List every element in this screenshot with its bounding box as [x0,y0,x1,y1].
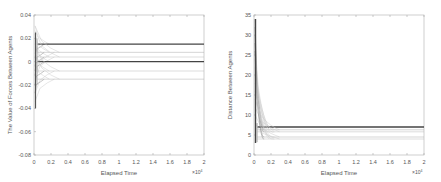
axes-box [34,15,204,155]
axes-box [254,15,424,155]
x-tick-label: 0.4 [64,159,72,165]
x-tick-label: 0.2 [267,159,275,165]
x-tick-label: 2 [202,159,205,165]
y-tick-label: 15 [245,92,251,98]
y-tick-label: 0.04 [20,12,31,18]
x-axis-label: Elapsed Time [321,170,358,176]
x-tick-label: 0 [252,159,255,165]
x-tick-label: 0.2 [47,159,55,165]
y-tick-label: -0.02 [18,82,31,88]
x-multiplier: ×104 [412,169,422,175]
x-tick-label: 1.6 [166,159,174,165]
x-tick-label: 1.6 [386,159,394,165]
y-tick-label: -0.04 [18,105,31,111]
x-tick-label: 0.8 [318,159,326,165]
x-tick-label: 0.6 [81,159,89,165]
y-tick-label: 0 [248,152,251,158]
x-tick-label: 0.4 [284,159,292,165]
x-tick-label: 2 [422,159,425,165]
y-tick-label: 10 [245,112,251,118]
y-tick-label: 5 [248,132,251,138]
x-tick-label: 0.6 [301,159,309,165]
x-tick-label: 1.8 [183,159,191,165]
distance-plot: 00.20.40.60.811.21.41.61.823530252015105… [227,12,426,176]
y-tick-label: 20 [245,72,251,78]
x-tick-label: 1.8 [403,159,411,165]
y-axis-label: The Value of Forces Between Agents [7,36,13,135]
y-tick-label: 0.02 [20,35,31,41]
x-tick-label: 1.4 [149,159,157,165]
x-tick-label: 0 [32,159,35,165]
x-tick-label: 1.2 [132,159,140,165]
x-tick-label: 1.2 [352,159,360,165]
y-tick-label: -0.08 [18,152,31,158]
y-tick-label: -0.06 [18,129,31,135]
y-tick-label: 0 [28,59,31,65]
y-tick-label: 25 [245,52,251,58]
x-tick-label: 1 [117,159,120,165]
x-tick-label: 1.4 [369,159,377,165]
x-tick-label: 1 [337,159,340,165]
x-axis-label: Elapsed Time [101,170,138,176]
figure: 00.20.40.60.811.21.41.61.820.040.020-0.0… [0,0,441,182]
y-axis-label: Distance Between Agents [227,51,233,119]
y-tick-label: 30 [245,32,251,38]
y-tick-label: 35 [245,12,251,18]
force-plot: 00.20.40.60.811.21.41.61.820.040.020-0.0… [7,12,206,176]
x-multiplier: ×104 [192,169,202,175]
x-tick-label: 0.8 [98,159,106,165]
